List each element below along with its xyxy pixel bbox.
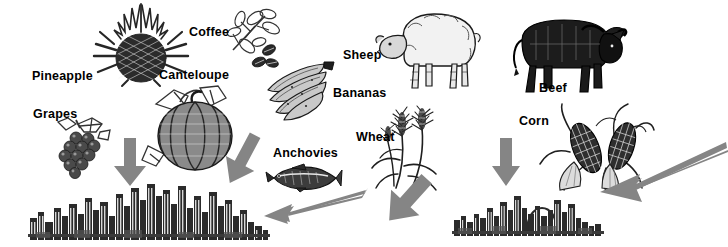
label-grapes: Grapes	[33, 108, 77, 121]
label-coffee: Coffee	[189, 26, 229, 39]
city-skyline-left	[28, 182, 270, 240]
city-skyline-right	[452, 188, 604, 236]
label-sheep: Sheep	[343, 49, 382, 62]
arrow-grapes-to-left-city	[112, 138, 148, 186]
label-pineapple: Pineapple	[32, 70, 93, 83]
label-wheat: Wheat	[356, 131, 395, 144]
label-bananas: Bananas	[333, 87, 387, 100]
arrow-anchovies-to-left-city	[258, 186, 370, 226]
sheep-illustration	[374, 6, 484, 92]
arrow-corn-to-right-city	[490, 138, 522, 186]
arrow-offscreen-to-right-city	[596, 140, 728, 202]
arrow-canteloupe-to-left-city	[216, 132, 268, 188]
label-beef: Beef	[539, 82, 567, 95]
label-anchovies: Anchovies	[273, 147, 338, 160]
grapes-illustration	[46, 112, 118, 184]
label-canteloupe: Canteloupe	[159, 69, 229, 82]
arrow-wheat-to-right-city	[372, 172, 444, 230]
label-corn: Corn	[519, 115, 549, 128]
bananas-illustration	[262, 60, 340, 122]
